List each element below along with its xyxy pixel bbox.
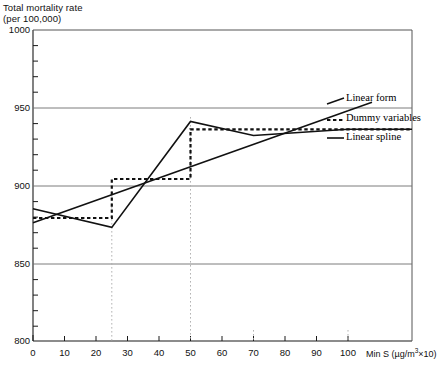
y-tick-label-950: 950: [0, 102, 30, 113]
x-tick-label-30: 30: [115, 347, 141, 358]
x-axis-label-prefix: Min S: [366, 349, 389, 359]
y-tick-label-850: 850: [0, 258, 30, 269]
x-tick-label-60: 60: [209, 347, 235, 358]
x-tick-label-80: 80: [272, 347, 298, 358]
x-axis-label: Min S (µg/m3×10): [366, 347, 437, 359]
legend-label-linear-spline: Linear spline: [346, 131, 401, 142]
series-linear-form: [33, 102, 372, 223]
x-tick-label-10: 10: [52, 347, 78, 358]
figure-footnote: [18, 362, 318, 370]
x-tick-label-40: 40: [146, 347, 172, 358]
y-tick-label-1000: 1000: [0, 24, 30, 35]
y-tick-label-900: 900: [0, 180, 30, 191]
y-tick-label-800: 800: [0, 335, 30, 346]
legend-label-dummy-variables: Dummy variables: [346, 112, 421, 123]
x-axis-label-unit: (µg/m: [392, 349, 415, 359]
x-tick-label-90: 90: [304, 347, 330, 358]
x-tick-label-20: 20: [83, 347, 109, 358]
x-axis-label-suffix: ×10): [418, 349, 436, 359]
vertical-guides: [112, 117, 348, 341]
x-tick-label-0: 0: [20, 347, 46, 358]
x-tick-label-50: 50: [178, 347, 204, 358]
x-tick-label-70: 70: [241, 347, 267, 358]
series-dummy-variables: [33, 129, 412, 218]
x-tick-label-100: 100: [335, 347, 361, 358]
legend-label-linear-form: Linear form: [346, 92, 396, 103]
plot-frame: [33, 30, 412, 341]
